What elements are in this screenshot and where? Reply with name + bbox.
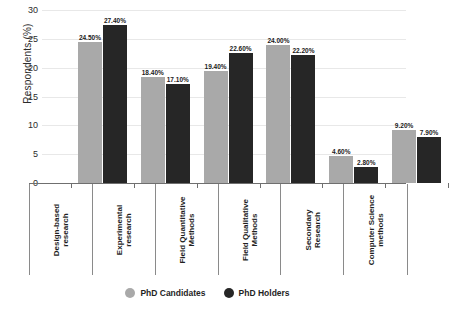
bar-value-label: 24.50% xyxy=(79,34,101,41)
bar[interactable]: 24.50% xyxy=(78,42,102,183)
bar-value-label: 17.10% xyxy=(167,76,189,83)
bar-value-label: 27.40% xyxy=(104,17,126,24)
category-label: Secondary Research xyxy=(304,187,322,273)
circle-marker xyxy=(125,288,135,298)
y-tick-15: 15 xyxy=(16,92,38,102)
bar[interactable]: 7.90% xyxy=(417,137,441,183)
y-tick-30: 30 xyxy=(16,5,38,15)
legend-label: PhD Candidates xyxy=(140,288,205,298)
category-label: Field Qualitative Methods xyxy=(241,187,259,273)
category-cell: Field Qualitative Methods xyxy=(218,184,282,275)
bar[interactable]: 17.10% xyxy=(166,84,190,183)
bar-value-label: 19.40% xyxy=(205,63,227,70)
bar-group: 4.60%2.80% xyxy=(329,10,378,183)
bar-group: 19.40%22.60% xyxy=(204,10,253,183)
bar-value-label: 9.20% xyxy=(395,122,413,129)
bar-value-label: 2.80% xyxy=(357,159,375,166)
bar[interactable]: 22.60% xyxy=(229,53,253,183)
bar-group: 9.20%7.90% xyxy=(392,10,441,183)
plot-area: 24.50%27.40%18.40%17.10%19.40%22.60%24.0… xyxy=(42,10,406,183)
bar-group: 24.00%22.20% xyxy=(266,10,315,183)
category-label: Experimental research xyxy=(115,187,133,273)
bar[interactable]: 9.20% xyxy=(392,130,416,183)
bar-group: 18.40%17.10% xyxy=(141,10,190,183)
category-label: Design-based research xyxy=(52,187,70,273)
bar-value-label: 24.00% xyxy=(267,37,289,44)
bar[interactable]: 2.80% xyxy=(354,167,378,183)
category-cell: Secondary Research xyxy=(280,184,344,275)
y-tick-5: 5 xyxy=(16,149,38,159)
category-label: Field Quantitative Methods xyxy=(178,187,196,273)
y-tick-10: 10 xyxy=(16,120,38,130)
bar-value-label: 4.60% xyxy=(332,148,350,155)
bar[interactable]: 18.40% xyxy=(141,77,165,183)
y-tick-25: 25 xyxy=(16,34,38,44)
bar[interactable]: 19.40% xyxy=(204,71,228,183)
bar[interactable]: 4.60% xyxy=(329,156,353,183)
category-label: Computer Science methods xyxy=(366,187,384,273)
category-cell: Computer Science methods xyxy=(343,184,408,275)
chart-legend: PhD CandidatesPhD Holders xyxy=(0,288,415,298)
bar-value-label: 22.60% xyxy=(230,45,252,52)
bar-value-label: 7.90% xyxy=(420,129,438,136)
bar-value-label: 18.40% xyxy=(142,69,164,76)
bar-value-label: 22.20% xyxy=(292,47,314,54)
legend-item[interactable]: PhD Holders xyxy=(224,288,290,298)
category-cell: Experimental research xyxy=(92,184,156,275)
bar[interactable]: 22.20% xyxy=(291,55,315,183)
x-axis-category-labels: Design-based researchExperimental resear… xyxy=(29,184,406,275)
circle-marker xyxy=(224,288,234,298)
y-tick-20: 20 xyxy=(16,63,38,73)
legend-item[interactable]: PhD Candidates xyxy=(125,288,205,298)
bar[interactable]: 27.40% xyxy=(103,25,127,183)
category-cell: Field Quantitative Methods xyxy=(155,184,219,275)
bar-group: 24.50%27.40% xyxy=(78,10,127,183)
legend-label: PhD Holders xyxy=(239,288,290,298)
bar[interactable]: 24.00% xyxy=(266,45,290,183)
category-cell: Design-based research xyxy=(29,184,93,275)
